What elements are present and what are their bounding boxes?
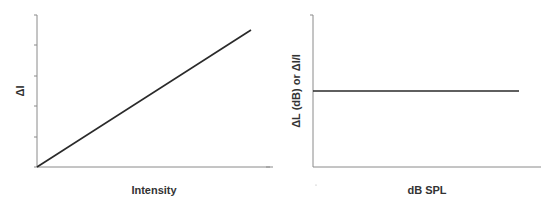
left-x-label: Intensity (131, 184, 177, 196)
left-y-label: ΔI (14, 86, 26, 97)
left-chart: Intensity ΔI (14, 15, 270, 196)
figure: Intensity ΔI dB SPL ΔL (dB) or ΔI/I (0, 0, 545, 209)
right-chart: dB SPL ΔL (dB) or ΔI/I (266, 15, 541, 196)
right-y-label: ΔL (dB) or ΔI/I (290, 54, 302, 128)
left-data-line (37, 30, 251, 167)
right-x-label: dB SPL (407, 184, 446, 196)
